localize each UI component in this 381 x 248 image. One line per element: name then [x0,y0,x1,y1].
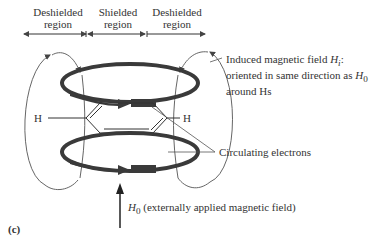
h0-subscript: 0 [363,74,368,84]
hydrogen-left-label: H [34,112,42,124]
region-label-right-line2: region [148,18,206,30]
region-label-right: Deshielded region [148,6,206,30]
applied-field-text: (externally applied magnetic field) [141,201,296,213]
top-current-ring [62,64,198,109]
induced-line1-suffix: : [341,53,344,65]
field-lines [25,52,233,190]
region-label-middle-line2: region [90,18,146,30]
benzene-ring [48,103,180,133]
induced-line1-text: Induced magnetic field [226,53,330,65]
induced-line3-text: around Hs [226,85,381,97]
panel-label: (c) [8,223,20,235]
region-label-left-line1: Deshielded [28,6,88,18]
induced-symbol: H [330,53,338,65]
induced-line2-text: oriented in same direction as [226,69,355,81]
induced-field-label: Induced magnetic field Hi: oriented in s… [226,53,381,97]
applied-h0-symbol: H [128,201,136,213]
applied-field-label: H0 (externally applied magnetic field) [128,201,296,217]
region-label-right-line1: Deshielded [148,6,206,18]
region-label-middle-line1: Shielded [90,6,146,18]
region-dimension-lines [24,31,205,37]
applied-field-arrow [116,183,124,228]
region-label-left-line2: region [28,18,88,30]
h0-symbol: H [355,69,363,81]
region-label-left: Deshielded region [28,6,88,30]
hydrogen-right-label: H [183,112,191,124]
circulating-electrons-label: Circulating electrons [219,146,311,158]
bottom-current-ring [62,133,198,175]
region-label-middle: Shielded region [90,6,146,30]
